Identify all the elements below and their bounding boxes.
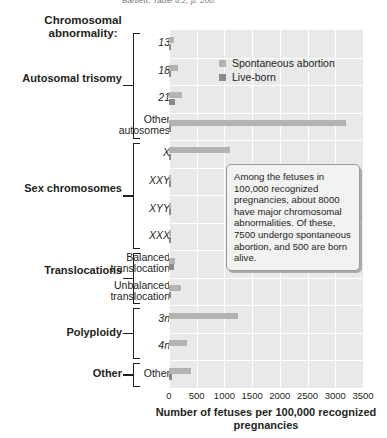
category-label: 18: [92, 65, 170, 76]
gridline-horizontal: [169, 113, 363, 114]
legend-label-live-born: Live-born: [232, 70, 276, 84]
category-label: Other autosomes: [92, 114, 170, 136]
source-citation: Bartlett, Table 6.2, p. 200.: [122, 0, 216, 5]
bar-live-born: [169, 209, 171, 215]
bar-spontaneous-abortion: [169, 368, 191, 374]
bar-live-born: [169, 237, 171, 243]
bar-live-born: [169, 71, 171, 77]
bar-spontaneous-abortion: [169, 65, 178, 71]
bar-live-born: [169, 374, 172, 380]
x-tick-label: 2000: [269, 390, 290, 401]
bar-live-born: [169, 99, 175, 105]
x-axis-ticks: 0500100015002000250030003500: [169, 390, 363, 402]
gridline-horizontal: [169, 278, 363, 279]
x-tick-label: 0: [166, 390, 171, 401]
legend-item: Spontaneous abortion: [219, 56, 335, 70]
bar-spontaneous-abortion: [169, 258, 175, 264]
category-label-list: 131821Other autosomesXXXYXYYXXXBalanced …: [92, 30, 170, 388]
bar-spontaneous-abortion: [169, 120, 346, 126]
gridline-vertical: [197, 30, 198, 388]
legend-item: Live-born: [219, 70, 335, 84]
bar-spontaneous-abortion: [169, 37, 174, 43]
bar-spontaneous-abortion: [169, 175, 171, 181]
x-tick-label: 3000: [325, 390, 346, 401]
gridline-horizontal: [169, 305, 363, 306]
bar-spontaneous-abortion: [169, 230, 171, 236]
bar-spontaneous-abortion: [169, 340, 187, 346]
x-tick-label: 3500: [352, 390, 373, 401]
bar-spontaneous-abortion: [169, 313, 238, 319]
category-label: XYY: [92, 203, 170, 214]
category-label: 3n: [92, 313, 170, 324]
bar-live-born: [169, 44, 171, 50]
category-label: Balanced translocation: [92, 252, 170, 274]
x-tick-label: 2500: [297, 390, 318, 401]
gridline-horizontal: [169, 333, 363, 334]
gridline-vertical: [363, 30, 364, 388]
annotation-callout: Among the fetuses in 100,000 recognized …: [226, 164, 360, 271]
bar-live-born: [169, 181, 171, 187]
category-label: 13: [92, 37, 170, 48]
bar-live-born: [169, 126, 171, 132]
chart-figure: Bartlett, Table 6.2, p. 200. Chromosomal…: [0, 0, 387, 438]
category-label: XXX: [92, 230, 170, 241]
plot-area: Spontaneous abortion Live-born Among the…: [169, 30, 363, 388]
gridline-horizontal: [169, 140, 363, 141]
category-label: Unbalanced translocation: [92, 280, 170, 302]
category-label: 4n: [92, 340, 170, 351]
category-label: 21: [92, 92, 170, 103]
bar-live-born: [169, 154, 171, 160]
x-tick-label: 500: [189, 390, 205, 401]
gridline-horizontal: [169, 85, 363, 86]
legend-swatch-live-born: [219, 74, 226, 81]
x-tick-label: 1500: [242, 390, 263, 401]
category-label: X: [92, 147, 170, 158]
category-label: Other: [92, 368, 170, 379]
bar-spontaneous-abortion: [169, 203, 171, 209]
legend-label-spontaneous-abortion: Spontaneous abortion: [232, 56, 335, 70]
legend: Spontaneous abortion Live-born: [219, 56, 335, 84]
bar-spontaneous-abortion: [169, 147, 230, 153]
x-axis-title: Number of fetuses per 100,000 recognized…: [150, 406, 382, 432]
gridline-horizontal: [169, 360, 363, 361]
bar-spontaneous-abortion: [169, 92, 182, 98]
bar-live-born: [169, 264, 174, 270]
bar-spontaneous-abortion: [169, 285, 181, 291]
category-label: XXY: [92, 175, 170, 186]
bar-live-born: [169, 292, 171, 298]
legend-swatch-spontaneous-abortion: [219, 60, 226, 67]
x-tick-label: 1000: [214, 390, 235, 401]
